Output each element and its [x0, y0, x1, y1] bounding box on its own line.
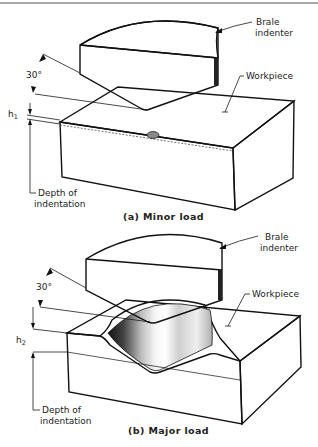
workpiece-top-face	[60, 87, 294, 148]
rockwell-hardness-diagram: 30° h1 Depth of indentation Brale indent…	[0, 0, 318, 447]
workpiece-side-face	[233, 101, 294, 210]
angle-label-b: 30°	[36, 282, 52, 292]
indenter-top-face	[80, 21, 218, 58]
panel-a-minor-load: 30° h1 Depth of indentation Brale indent…	[8, 17, 294, 222]
workpiece-leader-a	[225, 76, 244, 112]
indenter-label-line2-a: indenter	[255, 28, 293, 38]
depth-label-line1-b: Depth of	[42, 405, 82, 415]
caption-b: (b) Major load	[128, 425, 209, 436]
indenter-label-line1-a: Brale	[256, 17, 280, 27]
indenter-edge-shadow	[218, 270, 222, 300]
workpiece-block-a	[60, 87, 294, 210]
indentation-crater	[108, 304, 212, 371]
indenter-label-line2-b: indenter	[260, 243, 298, 253]
panel-b-major-load: 30° h2 Depth of indentation Brale indent…	[16, 232, 301, 436]
depth-label-line1-a: Depth of	[38, 188, 78, 198]
workpiece-label-a: Workpiece	[246, 71, 293, 81]
workpiece-block-b	[67, 300, 301, 424]
indentation-dimple	[147, 132, 159, 139]
indenter-edge-shadow	[214, 58, 218, 85]
workpiece-side-face	[240, 316, 301, 424]
depth-label-line2-b: indentation	[40, 416, 91, 426]
depth-symbol-a: h1	[8, 109, 18, 121]
angle-line-b	[50, 268, 86, 288]
depth-symbol-b: h2	[16, 335, 26, 347]
angle-line-a	[43, 54, 80, 73]
indenter-label-line1-b: Brale	[265, 232, 289, 242]
caption-a: (a) Minor load	[123, 211, 204, 222]
angle-label-a: 30°	[26, 70, 42, 80]
workpiece-label-b: Workpiece	[252, 289, 299, 299]
depth-label-line2-a: indentation	[34, 199, 85, 209]
